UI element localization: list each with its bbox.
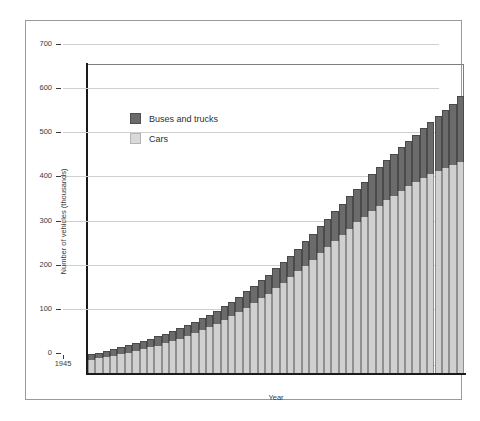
bar-segment-cars	[206, 327, 213, 373]
bar-segment-buses-and-trucks	[398, 147, 405, 191]
bar-segment-buses-and-trucks	[368, 174, 375, 211]
bar-segment-buses-and-trucks	[339, 204, 346, 235]
bar-column	[317, 226, 324, 373]
bar-column	[368, 174, 375, 373]
bar-column	[361, 182, 368, 373]
bar-column	[280, 262, 287, 373]
bar-segment-buses-and-trucks	[280, 262, 287, 283]
bar-segment-cars	[368, 211, 375, 373]
bar-column	[309, 234, 316, 373]
bar-column	[117, 347, 124, 373]
bar-column	[265, 275, 272, 373]
bar-column	[383, 160, 390, 373]
bar-segment-cars	[199, 330, 206, 373]
bar-segment-cars	[162, 343, 169, 373]
bar-segment-cars	[317, 253, 324, 373]
bar-segment-cars	[331, 241, 338, 373]
bar-segment-cars	[449, 165, 456, 373]
bar-column	[324, 219, 331, 373]
bar-segment-buses-and-trucks	[176, 328, 183, 339]
bar-segment-cars	[324, 247, 331, 373]
bar-segment-buses-and-trucks	[228, 302, 235, 317]
bar-segment-cars	[243, 308, 250, 373]
bar-segment-cars	[302, 266, 309, 373]
bar-segment-cars	[88, 360, 95, 373]
bar-column	[147, 339, 154, 373]
bar-segment-cars	[309, 260, 316, 373]
bar-segment-cars	[132, 351, 139, 373]
bar-segment-cars	[258, 298, 265, 373]
bar-segment-buses-and-trucks	[376, 167, 383, 205]
bar-column	[140, 341, 147, 373]
bar-column	[154, 336, 161, 373]
bar-segment-cars	[353, 222, 360, 373]
bar-segment-cars	[405, 186, 412, 373]
bar-segment-cars	[117, 354, 124, 373]
bar-segment-buses-and-trucks	[420, 128, 427, 177]
bar-segment-cars	[221, 320, 228, 373]
bar-segment-cars	[250, 303, 257, 373]
bar-column	[132, 343, 139, 373]
bar-segment-buses-and-trucks	[250, 286, 257, 303]
bar-segment-cars	[140, 349, 147, 373]
bar-segment-cars	[110, 356, 117, 373]
bar-segment-cars	[383, 200, 390, 373]
bar-column	[221, 306, 228, 373]
bar-column	[88, 354, 95, 373]
y-tick-label: 400	[16, 172, 52, 180]
bar-segment-buses-and-trucks	[88, 354, 95, 359]
bar-segment-buses-and-trucks	[324, 219, 331, 247]
bar-column	[412, 135, 419, 373]
y-tick-mark	[56, 88, 61, 89]
bar-segment-cars	[339, 235, 346, 373]
bar-column	[206, 315, 213, 373]
bar-segment-buses-and-trucks	[199, 318, 206, 330]
bar-segment-buses-and-trucks	[287, 256, 294, 278]
bar-column	[287, 256, 294, 373]
bar-segment-buses-and-trucks	[317, 226, 324, 253]
bar-segment-cars	[287, 277, 294, 373]
bar-segment-cars	[265, 294, 272, 373]
legend-swatch-cars	[130, 133, 141, 144]
bar-column	[339, 204, 346, 373]
x-axis-label: Year	[88, 393, 464, 402]
bar-column	[228, 302, 235, 374]
bar-segment-buses-and-trucks	[147, 339, 154, 348]
bar-segment-cars	[272, 288, 279, 373]
bar-column	[199, 318, 206, 373]
bar-column	[449, 104, 456, 373]
y-tick-mark	[56, 44, 61, 45]
bar-column	[302, 241, 309, 373]
bar-segment-buses-and-trucks	[125, 345, 132, 353]
bar-segment-cars	[294, 271, 301, 373]
bar-segment-buses-and-trucks	[390, 154, 397, 196]
bar-column	[103, 351, 110, 373]
bar-segment-buses-and-trucks	[154, 336, 161, 345]
bar-segment-buses-and-trucks	[442, 110, 449, 167]
bar-segment-buses-and-trucks	[309, 234, 316, 260]
x-axis-line	[86, 373, 466, 375]
bar-segment-cars	[213, 324, 220, 373]
bar-segment-cars	[420, 178, 427, 373]
y-tick-label: 600	[16, 84, 52, 92]
bar-column	[110, 349, 117, 373]
chart-legend: Buses and trucks Cars	[130, 113, 218, 153]
bar-column	[427, 122, 434, 373]
bar-segment-buses-and-trucks	[221, 306, 228, 320]
bar-segment-cars	[376, 206, 383, 373]
bar-column	[376, 167, 383, 373]
bar-segment-buses-and-trucks	[140, 341, 147, 349]
bar-segment-buses-and-trucks	[427, 122, 434, 174]
bar-segment-cars	[103, 357, 110, 373]
bar-segment-buses-and-trucks	[302, 241, 309, 265]
bar-segment-buses-and-trucks	[457, 96, 464, 162]
legend-item-buses-and-trucks: Buses and trucks	[130, 113, 218, 124]
bar-column	[191, 322, 198, 373]
bar-segment-cars	[184, 336, 191, 373]
bar-segment-cars	[412, 182, 419, 373]
y-tick-label: 700	[16, 40, 52, 48]
bar-segment-cars	[346, 229, 353, 373]
bar-segment-buses-and-trucks	[383, 160, 390, 200]
bar-column	[294, 249, 301, 373]
figure: 0100200300400500600700 19451955196519751…	[0, 0, 480, 421]
